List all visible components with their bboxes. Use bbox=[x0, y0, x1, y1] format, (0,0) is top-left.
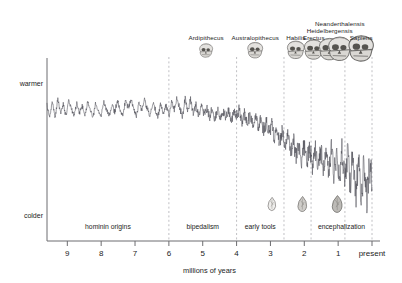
y-label-colder: colder bbox=[24, 212, 43, 219]
species-label-5: Neanderthalensis bbox=[315, 21, 365, 27]
chart-canvas bbox=[0, 0, 402, 283]
x-tick-label-7: 2 bbox=[302, 250, 306, 258]
species-label-0: Ardipithecus bbox=[188, 35, 223, 41]
oldowan-tool-icon bbox=[268, 197, 276, 210]
x-axis-ticks bbox=[67, 241, 372, 246]
x-tick-label-4: 5 bbox=[200, 250, 204, 258]
climate-hominin-evolution-figure: 987654321presentmillions of yearswarmerc… bbox=[0, 0, 402, 283]
x-tick-label-0: 9 bbox=[65, 250, 69, 258]
x-tick-label-3: 6 bbox=[167, 250, 171, 258]
era-label-0: hominin origins bbox=[85, 224, 131, 231]
axes bbox=[47, 58, 380, 241]
species-label-3: Erectus bbox=[303, 35, 325, 41]
x-tick-label-9: present bbox=[359, 250, 386, 258]
skull-icon bbox=[200, 44, 213, 58]
skull-icon bbox=[287, 41, 304, 59]
skull-icon bbox=[248, 42, 263, 58]
x-axis-title: millions of years bbox=[183, 267, 236, 274]
x-tick-label-2: 7 bbox=[133, 250, 137, 258]
mousterian-tool-icon bbox=[332, 196, 342, 213]
era-label-2: early tools bbox=[245, 224, 276, 231]
era-label-1: bipedalism bbox=[186, 224, 219, 231]
x-tick-label-5: 4 bbox=[234, 250, 238, 258]
era-label-3: encephalization bbox=[318, 224, 365, 231]
y-label-warmer: warmer bbox=[20, 80, 43, 87]
climate-proxy-curve bbox=[47, 96, 372, 213]
x-tick-label-8: 1 bbox=[336, 250, 340, 258]
species-label-4: Heidelbergensis bbox=[307, 28, 353, 34]
x-tick-label-1: 8 bbox=[99, 250, 103, 258]
species-label-1: Australopithecus bbox=[232, 35, 279, 41]
species-label-6: Sapiens bbox=[350, 35, 373, 41]
skull-icon bbox=[329, 37, 352, 60]
x-tick-label-6: 3 bbox=[268, 250, 272, 258]
acheulean-tool-icon bbox=[298, 196, 307, 211]
